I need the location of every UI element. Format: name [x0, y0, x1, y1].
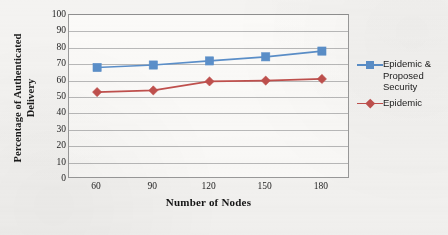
x-axis-tick-label: 120 — [201, 181, 215, 191]
square-marker-icon — [149, 61, 157, 69]
legend-label: Epidemic &ProposedSecurity — [383, 58, 431, 93]
square-marker-icon — [205, 57, 213, 65]
square-marker-icon — [93, 63, 101, 71]
x-axis-tick-label: 150 — [258, 181, 272, 191]
y-axis-tick-label: 10 — [57, 157, 67, 167]
diamond-marker-icon — [205, 77, 214, 86]
y-axis-title-line-2: Delivery — [24, 33, 37, 162]
x-axis-title: Number of Nodes — [68, 196, 349, 208]
x-axis-tick-label: 90 — [148, 181, 158, 191]
square-marker-icon — [318, 47, 326, 55]
legend-entry[interactable]: Epidemic — [357, 97, 445, 109]
chart-legend: Epidemic &ProposedSecurityEpidemic — [357, 58, 445, 113]
y-axis-tick-label: 80 — [57, 42, 67, 52]
y-axis-tick-label: 40 — [57, 107, 67, 117]
diamond-marker-icon — [149, 86, 158, 95]
series-layer — [69, 15, 350, 179]
y-axis-tick-labels: 0102030405060708090100 — [38, 9, 66, 181]
y-axis-tick-label: 30 — [57, 124, 67, 134]
square-marker-icon — [262, 53, 270, 61]
legend-swatch — [357, 98, 383, 109]
line-chart: Percentage of Authenticated Delivery 010… — [0, 0, 448, 235]
diamond-marker-icon — [317, 74, 326, 83]
y-axis-tick-label: 100 — [52, 9, 66, 19]
x-axis-tick-labels: 6090120150180 — [68, 181, 349, 195]
y-axis-tick-label: 90 — [57, 25, 67, 35]
x-axis-tick-label: 60 — [91, 181, 101, 191]
legend-label: Epidemic — [383, 97, 422, 109]
plot-area — [68, 14, 349, 178]
y-axis-tick-label: 70 — [57, 58, 67, 68]
y-axis-tick-label: 60 — [57, 75, 67, 85]
x-axis-tick-label: 180 — [314, 181, 328, 191]
square-marker-icon — [366, 61, 374, 69]
y-axis-tick-label: 20 — [57, 140, 67, 150]
y-axis-title-line-1: Percentage of Authenticated — [11, 33, 24, 162]
diamond-marker-icon — [93, 87, 102, 96]
y-axis-tick-label: 50 — [57, 91, 67, 101]
y-axis-tick-label: 0 — [61, 173, 66, 183]
diamond-marker-icon — [261, 76, 270, 85]
legend-swatch — [357, 59, 383, 70]
diamond-marker-icon — [366, 99, 375, 108]
legend-entry[interactable]: Epidemic &ProposedSecurity — [357, 58, 445, 93]
